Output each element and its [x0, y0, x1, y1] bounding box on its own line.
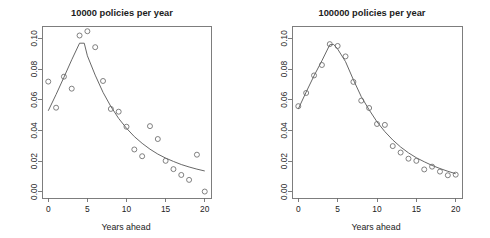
data-points-left: [46, 29, 207, 194]
x-tick-label: 0: [46, 204, 51, 214]
data-point-marker: [382, 122, 387, 127]
data-point-marker: [327, 42, 332, 47]
data-point-marker: [171, 167, 176, 172]
data-point-marker: [116, 109, 121, 114]
data-point-marker: [54, 105, 59, 110]
x-tick-label: 10: [372, 204, 382, 214]
data-point-marker: [359, 98, 364, 103]
x-tick-label: 15: [412, 204, 422, 214]
y-tick-label: 0.08: [279, 61, 289, 78]
chart-canvas-left: 10000 policies per year 051015200.000.02…: [0, 0, 245, 238]
fitted-curve-path: [298, 44, 455, 173]
chart-title-right: 100000 policies per year: [319, 8, 426, 18]
x-axis-label-left: Years ahead: [101, 222, 150, 232]
data-point-marker: [179, 172, 184, 177]
x-tick-label: 20: [451, 204, 461, 214]
y-tick-label: 0.06: [279, 91, 289, 108]
data-point-marker: [147, 124, 152, 129]
y-tick-label: 0.04: [279, 122, 289, 139]
chart-panel-right: 100000 policies per year 051015200.000.0…: [245, 0, 490, 238]
data-point-marker: [398, 150, 403, 155]
chart-title-left: 10000 policies per year: [71, 8, 173, 18]
chart-panel-left: 10000 policies per year 051015200.000.02…: [0, 0, 245, 238]
data-point-marker: [132, 147, 137, 152]
y-tick-label: 0.00: [279, 183, 289, 200]
x-tick-label: 5: [335, 204, 340, 214]
data-point-marker: [202, 189, 207, 194]
data-point-marker: [414, 158, 419, 163]
data-point-marker: [187, 177, 192, 182]
data-point-marker: [406, 156, 411, 161]
data-point-marker: [93, 45, 98, 50]
figure-container: 10000 policies per year 051015200.000.02…: [0, 0, 490, 238]
chart-canvas-right: 100000 policies per year 051015200.000.0…: [245, 0, 490, 238]
axes-right: 051015200.000.020.040.060.080.10: [279, 26, 462, 214]
x-tick-label: 20: [200, 204, 210, 214]
data-point-marker: [77, 33, 82, 38]
x-tick-label: 5: [85, 204, 90, 214]
data-point-marker: [140, 154, 145, 159]
data-point-marker: [155, 137, 160, 142]
data-point-marker: [453, 172, 458, 177]
data-point-marker: [422, 167, 427, 172]
y-tick-label: 0.06: [29, 91, 39, 108]
x-tick-label: 0: [296, 204, 301, 214]
x-axis-label-right: Years ahead: [351, 222, 400, 232]
data-point-marker: [437, 169, 442, 174]
y-tick-label: 0.10: [29, 30, 39, 47]
data-point-marker: [101, 78, 106, 83]
fitted-curve-left: [48, 43, 204, 171]
fitted-curve-right: [298, 44, 455, 173]
data-point-marker: [335, 43, 340, 48]
data-point-marker: [390, 144, 395, 149]
y-tick-label: 0.02: [29, 153, 39, 170]
y-tick-label: 0.10: [279, 30, 289, 47]
x-tick-label: 15: [161, 204, 171, 214]
data-point-marker: [343, 54, 348, 59]
data-point-marker: [163, 158, 168, 163]
data-point-marker: [445, 173, 450, 178]
y-tick-label: 0.04: [29, 122, 39, 139]
data-point-marker: [85, 29, 90, 34]
y-tick-label: 0.00: [29, 183, 39, 200]
y-tick-label: 0.08: [29, 61, 39, 78]
data-point-marker: [46, 79, 51, 84]
y-tick-label: 0.02: [279, 153, 289, 170]
x-tick-label: 10: [122, 204, 132, 214]
data-points-right: [296, 42, 458, 178]
fitted-curve-path: [48, 43, 204, 171]
data-point-marker: [69, 86, 74, 91]
data-point-marker: [194, 152, 199, 157]
